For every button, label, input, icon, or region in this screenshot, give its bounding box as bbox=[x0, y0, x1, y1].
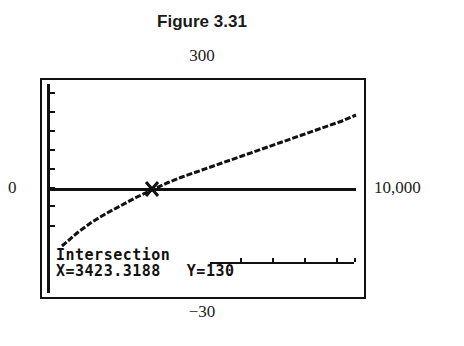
y-readout: Y=130 bbox=[187, 262, 235, 280]
window-xmin-label: 0 bbox=[8, 178, 17, 198]
calculator-screen: Intersection X=3423.3188Y=130 bbox=[40, 78, 366, 299]
intersection-label: Intersection bbox=[56, 248, 170, 263]
window-xmax-label: 10,000 bbox=[374, 178, 421, 198]
coordinate-readout: X=3423.3188Y=130 bbox=[56, 264, 261, 279]
y-axis-ticks bbox=[50, 92, 55, 227]
window-ymin-label: −30 bbox=[180, 302, 224, 322]
figure-title: Figure 3.31 bbox=[0, 12, 404, 32]
horizontal-line bbox=[50, 188, 356, 191]
curve-line bbox=[62, 115, 356, 246]
window-ymax-label: 300 bbox=[180, 46, 224, 66]
x-readout: X=3423.3188 bbox=[56, 262, 161, 280]
y-axis bbox=[47, 84, 50, 293]
